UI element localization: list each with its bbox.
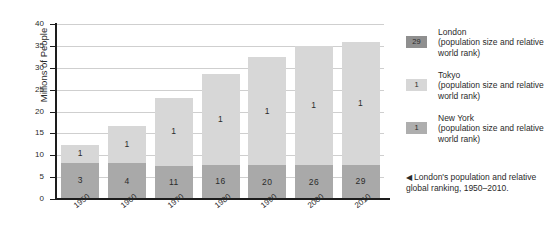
bar-segment-label: 1 [265,107,270,116]
y-axis-tick-label: 0 [22,195,44,203]
legend-item: 29London(population size and relative wo… [406,27,548,61]
bar-segment-label: 29 [356,177,366,186]
chart-legend: 29London(population size and relative wo… [406,27,548,156]
legend-swatch: 1 [406,79,427,91]
y-axis-tick-label: 40 [22,20,44,28]
bar-segment-tokyo: 1 [295,46,333,165]
bar-stack: 14 [108,126,146,199]
bar-segment-london: 16 [202,165,240,199]
bar-segment-tokyo: 1 [248,57,286,166]
bar-segment-label: 20 [262,178,272,187]
y-axis-tick-label: 35 [22,42,44,50]
bar-segment-label: 16 [215,177,225,186]
bar-segment-tokyo: 1 [108,126,146,163]
legend-series-name: New York [438,113,548,123]
y-axis-tick-label: 5 [22,173,44,181]
y-axis-tick-label: 20 [22,108,44,116]
figure-caption: ◀London's population and relative global… [406,172,551,194]
y-axis-tick-label: 30 [22,64,44,72]
bar-segment-tokyo: 1 [342,42,380,165]
bar-stack: 116 [202,74,240,199]
bar-segment-tokyo: 1 [61,145,99,163]
y-axis-tick-label: 15 [22,129,44,137]
legend-swatch: 29 [406,36,427,48]
legend-series-name: London [438,27,548,37]
bar-segment-tokyo: 1 [155,98,193,166]
legend-swatch-label: 1 [414,81,418,89]
legend-series-description: (population size and relative world rank… [438,123,548,144]
bar-segment-label: 1 [78,149,83,158]
bar-segment-label: 1 [358,99,363,108]
bar-segment-london: 26 [295,165,333,199]
plot-area: 1314111116120126129 [57,24,384,199]
legend-text: Tokyo(population size and relative world… [438,70,548,101]
bar-segment-london: 20 [248,165,286,199]
legend-text: New York(population size and relative wo… [438,113,548,144]
bar-stack: 129 [342,42,380,200]
bar-segment-label: 1 [171,127,176,136]
bar-segment-label: 4 [124,177,129,186]
bar-segment-tokyo: 1 [202,74,240,165]
caption-text: London's population and relative global … [406,172,536,193]
gridline [57,24,384,25]
bar-segment-london: 29 [342,165,380,199]
legend-series-description: (population size and relative world rank… [438,37,548,58]
bar-segment-london: 11 [155,166,193,199]
y-axis-tick-label: 25 [22,86,44,94]
legend-series-description: (population size and relative world rank… [438,80,548,101]
bar-stack: 111 [155,98,193,200]
bar-segment-london: 3 [61,163,99,199]
bar-segment-label: 26 [309,178,319,187]
bar-stack: 13 [61,145,99,199]
bar-stack: 120 [248,57,286,199]
figure-population-chart: Millions of People 0510152025303540 1314… [0,0,552,238]
bar-segment-label: 3 [78,176,83,185]
bar-segment-label: 11 [169,178,179,187]
bar-segment-label: 1 [311,101,316,110]
gridline [57,68,384,69]
legend-item: 1New York(population size and relative w… [406,113,548,147]
legend-text: London(population size and relative worl… [438,27,548,58]
bar-segment-label: 1 [218,115,223,124]
bar-segment-label: 1 [124,140,129,149]
legend-swatch-label: 1 [414,124,418,132]
bar-stack: 126 [295,46,333,199]
bar-segment-london: 4 [108,163,146,199]
legend-swatch-label: 29 [412,38,420,46]
legend-series-name: Tokyo [438,70,548,80]
legend-item: 1Tokyo(population size and relative worl… [406,70,548,104]
caption-arrow-icon: ◀ [406,173,412,182]
y-axis-tick-label: 10 [22,151,44,159]
gridline [57,46,384,47]
legend-swatch: 1 [406,122,427,134]
